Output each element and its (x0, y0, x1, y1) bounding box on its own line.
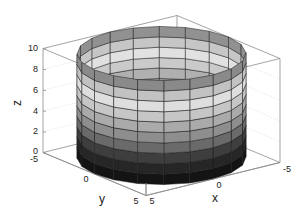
x-tick-neg5: -5 (283, 164, 291, 174)
z-tick-4: 4 (33, 106, 38, 116)
x-axis-label: x (212, 191, 218, 205)
y-tick-neg5: -5 (30, 154, 38, 164)
z-axis-label: z (10, 100, 24, 106)
z-tick-10: 10 (28, 43, 38, 53)
y-tick-0: 0 (83, 174, 88, 184)
z-tick-6: 6 (33, 85, 38, 95)
x-tick-0: 0 (216, 180, 221, 190)
y-tick-5: 5 (133, 196, 138, 206)
z-tick-2: 2 (33, 126, 38, 136)
x-tick-5: 5 (149, 196, 154, 206)
cylinder-surface (77, 26, 246, 184)
y-axis-label: y (99, 192, 105, 206)
cylinder-3d-plot: 10 8 6 4 2 0 z -5 0 5 y 5 0 -5 x (0, 0, 307, 218)
z-tick-8: 8 (33, 64, 38, 74)
